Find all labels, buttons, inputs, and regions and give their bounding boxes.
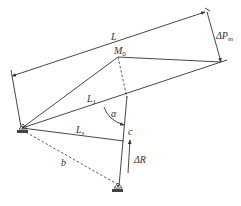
lower-station-icon bbox=[112, 183, 123, 192]
label-L1: L1 bbox=[86, 93, 97, 106]
line-vertical-c bbox=[119, 96, 127, 186]
line-L1-baseline bbox=[22, 60, 227, 128]
label-c: c bbox=[128, 126, 133, 137]
line-M0-to-right-point bbox=[118, 57, 221, 62]
left-extension-line bbox=[11, 70, 21, 127]
label-L: L bbox=[110, 31, 117, 42]
label-delta-Pm: ΔPm bbox=[215, 30, 233, 43]
line-Ls bbox=[22, 128, 124, 141]
right-extension-line bbox=[205, 8, 210, 11]
label-delta-R: ΔR bbox=[133, 154, 146, 165]
dashed-M0-perpendicular bbox=[118, 57, 127, 98]
geometry-diagram: L M0 ΔPm L1 Ls α c ΔR b bbox=[0, 0, 241, 206]
label-b: b bbox=[61, 157, 66, 168]
label-alpha: α bbox=[111, 108, 117, 119]
delta-R-arrow bbox=[128, 140, 130, 173]
L-dimension-line bbox=[12, 12, 205, 76]
label-M0: M0 bbox=[113, 45, 126, 58]
